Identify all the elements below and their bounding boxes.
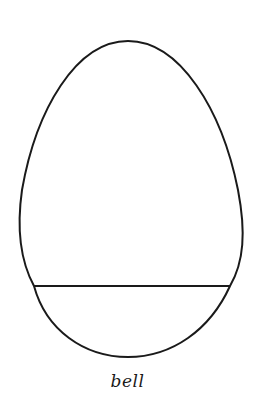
figure-label: bell — [0, 371, 255, 391]
egg-outline — [19, 41, 242, 357]
egg-diagram — [0, 0, 255, 411]
